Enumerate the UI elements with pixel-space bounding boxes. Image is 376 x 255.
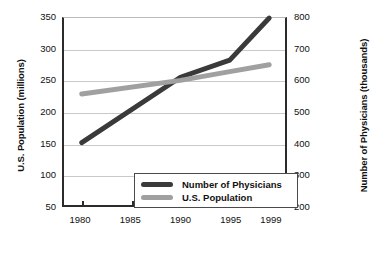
legend-label-population: U.S. Population <box>182 192 252 203</box>
y-axis-left-tick-label: 200 <box>28 106 56 117</box>
y-axis-right-tick-label: 800 <box>294 11 324 22</box>
y-axis-left-title: U.S. Population (millions) <box>15 16 26 216</box>
y-axis-right-tick-label: 500 <box>294 106 324 117</box>
y-axis-left-tick-label: 50 <box>28 201 56 212</box>
legend-label-physicians: Number of Physicians <box>182 179 282 190</box>
y-axis-right-tick-label: 200 <box>294 201 324 212</box>
x-axis-tick-label: 1999 <box>251 214 291 225</box>
series-line-population <box>82 65 269 94</box>
y-axis-left-tick-label: 250 <box>28 74 56 85</box>
legend-swatch-population <box>141 195 173 201</box>
y-axis-left-tick-label: 150 <box>28 138 56 149</box>
y-axis-right-tick-label: 400 <box>294 138 324 149</box>
x-axis-tick-label: 1995 <box>211 214 251 225</box>
y-axis-right-tick-label: 300 <box>294 169 324 180</box>
legend-item-physicians: Number of Physicians <box>141 178 297 191</box>
x-axis-tick-label: 1990 <box>161 214 201 225</box>
y-axis-right-tick-label: 600 <box>294 74 324 85</box>
y-axis-left-tick-label: 300 <box>28 43 56 54</box>
dual-axis-line-chart: U.S. Population (millions) Number of Phy… <box>0 0 376 255</box>
y-axis-right-tick-label: 700 <box>294 43 324 54</box>
x-axis-tick-label: 1985 <box>110 214 150 225</box>
chart-legend: Number of Physicians U.S. Population <box>134 173 298 208</box>
y-axis-left-tick-label: 350 <box>28 11 56 22</box>
y-axis-left-tick-label: 100 <box>28 169 56 180</box>
y-axis-right-title: Number of Physicians (thousands) <box>358 11 369 221</box>
legend-item-population: U.S. Population <box>141 191 297 204</box>
legend-swatch-physicians <box>141 182 173 188</box>
x-axis-tick-label: 1980 <box>60 214 100 225</box>
